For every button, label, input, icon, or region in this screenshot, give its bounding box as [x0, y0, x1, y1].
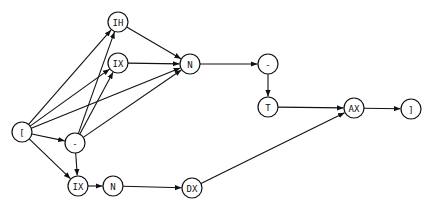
edge-n2-to-dx: [123, 186, 182, 187]
node-label: N: [110, 182, 115, 192]
node-label: -: [72, 139, 77, 149]
node-minus1: -: [65, 133, 85, 153]
edge-ax-to-rbr: [364, 108, 401, 109]
edge-ix1-to-n1: [128, 63, 180, 64]
node-ix2: IX: [68, 176, 88, 196]
edge-dx-to-ax: [201, 113, 345, 184]
node-label: -: [265, 60, 270, 70]
node-t: T: [258, 97, 278, 117]
node-n2: N: [103, 176, 123, 196]
node-label: IX: [73, 182, 84, 192]
edge-minus1-to-ix2: [76, 153, 78, 176]
node-label: N: [187, 60, 192, 70]
node-label: ]: [408, 105, 413, 115]
edge-lbr-to-minus1: [32, 134, 65, 141]
node-label: [: [19, 128, 24, 138]
node-dx: DX: [182, 178, 202, 198]
node-minus2: -: [258, 54, 278, 74]
edge-t-to-ax: [278, 107, 344, 108]
node-ih: IH: [108, 12, 128, 32]
node-ax: AX: [344, 98, 364, 118]
edge-ih-to-n1: [127, 27, 181, 59]
node-label: T: [265, 103, 271, 113]
node-label: DX: [187, 184, 198, 194]
directed-graph: [IHIXN-IXNDX-TAX]: [0, 0, 432, 205]
node-label: IX: [113, 59, 124, 69]
node-ix1: IX: [108, 53, 128, 73]
edge-lbr-to-ix2: [29, 139, 70, 179]
edge-lbr-to-n1: [31, 68, 180, 128]
node-n1: N: [180, 54, 200, 74]
node-label: AX: [349, 104, 360, 114]
nodes-layer: [IHIXN-IXNDX-TAX]: [12, 12, 421, 198]
edge-minus1-to-n1: [83, 70, 181, 137]
node-rbr: ]: [401, 99, 421, 119]
node-lbr: [: [12, 122, 32, 142]
node-label: IH: [113, 18, 124, 28]
